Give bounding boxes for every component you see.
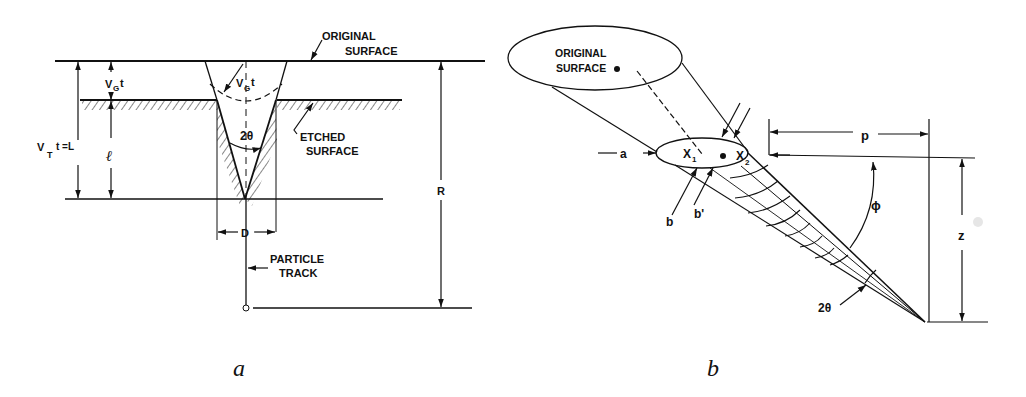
- figure-a: ORIGINAL SURFACE ETCHED SURFACE V G t V …: [37, 30, 485, 381]
- svg-text:t =L: t =L: [56, 141, 74, 152]
- etched-center-dot: [720, 153, 726, 159]
- cone-lower-axis: [741, 166, 925, 322]
- cone-upper-left: [205, 61, 217, 100]
- scan-artifact-dot: [973, 217, 983, 227]
- svg-text:V: V: [37, 141, 45, 153]
- svg-text:T: T: [47, 150, 53, 160]
- svg-text:G: G: [113, 84, 119, 93]
- original-surface-dot: [614, 66, 620, 72]
- label-original-surface-1: ORIGINAL: [322, 30, 376, 42]
- label-b-original-surface-1: ORIGINAL: [555, 47, 607, 59]
- svg-text:X: X: [683, 147, 691, 161]
- figure-canvas: ORIGINAL SURFACE ETCHED SURFACE V G t V …: [0, 0, 1026, 397]
- track-end-point: [243, 305, 249, 311]
- figure-b: ORIGINAL SURFACE a X 1 X 2 b b' p ϕ z 2θ…: [508, 26, 988, 381]
- label-l: ℓ: [106, 148, 112, 164]
- svg-text:t: t: [120, 77, 124, 89]
- caption-b: b: [707, 355, 719, 381]
- svg-text:V: V: [105, 78, 113, 90]
- svg-text:V: V: [236, 77, 244, 89]
- label-x1: X 1: [683, 147, 697, 164]
- label-etched-surface-1: ETCHED: [300, 131, 345, 143]
- label-two-theta-b: 2θ: [818, 301, 831, 315]
- etched-surface-ellipse: [656, 138, 748, 168]
- cone-lower-outer: [675, 165, 925, 322]
- surface-reference-line: [769, 155, 975, 158]
- label-two-theta-a: 2θ: [240, 129, 253, 143]
- label-b-prime: b': [694, 207, 704, 221]
- label-d: D: [241, 227, 249, 239]
- svg-text:X: X: [736, 149, 744, 163]
- label-b-original-surface-2: SURFACE: [556, 62, 606, 74]
- label-a: a: [620, 147, 627, 161]
- label-etched-surface-2: SURFACE: [306, 145, 359, 157]
- svg-text:1: 1: [692, 155, 697, 164]
- label-particle-track-2: TRACK: [279, 267, 318, 279]
- caption-a: a: [233, 355, 245, 381]
- label-p: p: [861, 128, 869, 143]
- label-phi: ϕ: [871, 198, 881, 213]
- label-vt-t-l: V T t =L: [37, 141, 74, 160]
- label-particle-track-1: PARTICLE: [270, 253, 324, 265]
- cone-inner-line: [710, 168, 925, 322]
- cone-side-upper-left: [552, 87, 657, 152]
- cone-hatch-right: [245, 100, 277, 206]
- cone-lower-right: [748, 153, 925, 322]
- svg-text:t: t: [251, 76, 255, 88]
- label-b: b: [666, 215, 673, 229]
- etched-hatch-right: [277, 101, 400, 110]
- label-original-surface-2: SURFACE: [345, 45, 398, 57]
- upper-pointer-2: [734, 108, 750, 138]
- svg-text:2: 2: [745, 158, 750, 167]
- svg-text:G: G: [244, 84, 250, 93]
- label-r: R: [437, 185, 445, 197]
- etch-front-arc-4: [766, 210, 800, 226]
- original-surface-pointer: [311, 40, 322, 60]
- cone-upper-right: [276, 61, 287, 100]
- etch-front-arc-2: [735, 181, 778, 198]
- label-z: z: [958, 228, 965, 243]
- label-vg-t-left: V G t: [105, 77, 124, 93]
- two-theta-pointer-b: [840, 285, 866, 305]
- etched-hatch-left: [82, 101, 217, 110]
